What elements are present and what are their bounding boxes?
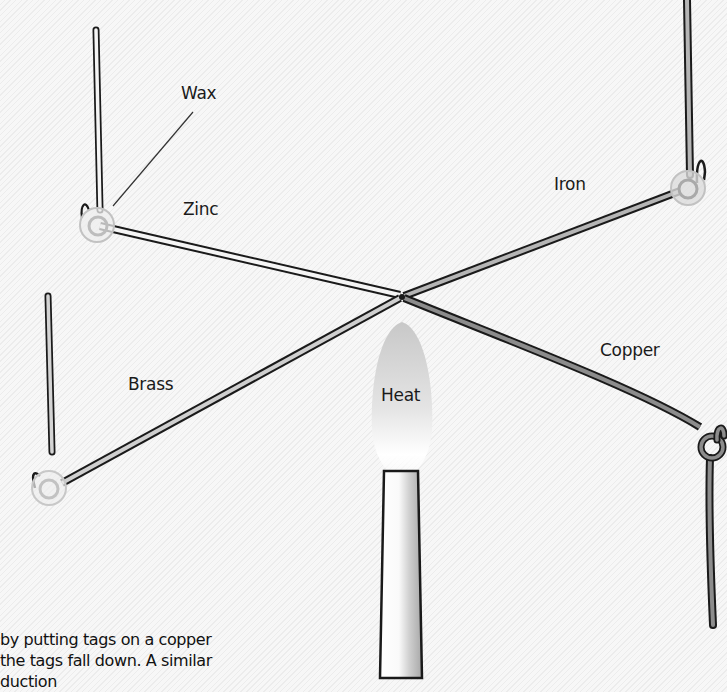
junction-knot	[399, 294, 405, 300]
label-heat: Heat	[381, 385, 420, 405]
caption-text: by putting tags on a copper the tags fal…	[0, 629, 300, 692]
iron-wax-blob	[671, 171, 705, 205]
label-copper: Copper	[600, 340, 660, 360]
label-brass: Brass	[128, 374, 173, 394]
label-wax: Wax	[181, 83, 216, 103]
label-iron: Iron	[554, 174, 586, 194]
caption-line-1: by putting tags on a copper	[0, 629, 300, 650]
caption-line-3: duction	[0, 671, 300, 692]
zinc-wax-blob	[80, 208, 114, 242]
burner-tube	[380, 471, 422, 678]
wax-pointer-line	[113, 112, 193, 206]
label-zinc: Zinc	[183, 199, 218, 219]
copper-wire	[404, 298, 724, 625]
iron-wire	[404, 0, 705, 296]
brass-wax-blob	[32, 471, 66, 505]
caption-line-2: the tags fall down. A similar	[0, 650, 300, 671]
zinc-wire	[82, 30, 400, 295]
brass-wire	[33, 296, 400, 488]
